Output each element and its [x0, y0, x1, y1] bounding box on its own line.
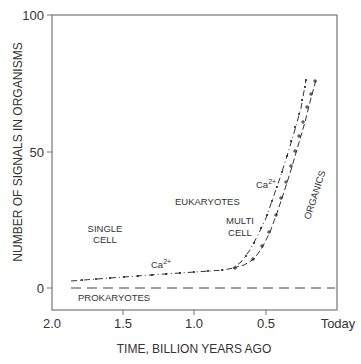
y-axis-title: NUMBER OF SIGNALS IN ORGANISMS — [11, 42, 25, 261]
label-ca-low: Ca2+ — [151, 258, 171, 270]
y-axis — [47, 15, 52, 288]
x-tick-2.0: 2.0 — [43, 316, 61, 331]
x-tick-1.5: 1.5 — [114, 316, 132, 331]
chart-svg: 100 50 0 2.0 1.5 1.0 0.5 Today TIME, BIL… — [0, 0, 361, 364]
organics-line — [233, 80, 316, 268]
label-eukaryotes: EUKARYOTES — [175, 196, 240, 207]
label-multi-cell: CELL — [228, 227, 252, 238]
label-single-cell: CELL — [93, 234, 117, 245]
x-axis-title: TIME, BILLION YEARS AGO — [117, 342, 272, 356]
y-tick-100: 100 — [22, 8, 44, 23]
x-tick-1.0: 1.0 — [185, 316, 203, 331]
y-tick-0: 0 — [37, 281, 44, 296]
y-tick-50: 50 — [30, 145, 44, 160]
x-axis — [123, 310, 266, 315]
x-tick-today: Today — [321, 316, 356, 331]
x-tick-0.5: 0.5 — [257, 316, 275, 331]
label-single: SINGLE — [88, 223, 123, 234]
label-ca-high: Ca2+ — [256, 178, 276, 190]
organics-markers — [233, 79, 317, 270]
label-prokaryotes: PROKARYOTES — [78, 292, 150, 303]
plot-frame — [52, 15, 337, 310]
label-multi: MULTI — [226, 215, 254, 226]
label-organics: ORGANICS — [301, 169, 327, 221]
